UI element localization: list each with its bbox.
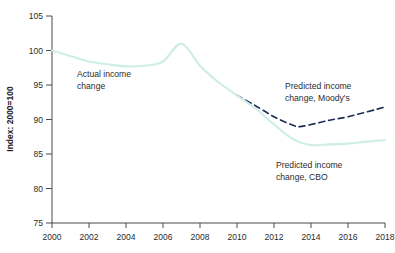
x-tick-label: 2004	[117, 232, 136, 242]
x-tick-label: 2006	[154, 232, 173, 242]
x-tick-label: 2018	[376, 232, 395, 242]
y-tick-label: 105	[29, 11, 43, 21]
x-tick-label: 2014	[302, 232, 321, 242]
y-tick-label: 75	[34, 218, 44, 228]
y-axis-title: Index: 2000=100	[5, 86, 15, 152]
x-tick-label: 2002	[80, 232, 99, 242]
annotation-line: Predicted income	[276, 160, 343, 170]
income-index-chart: 1051009590858075 20002002200420062008201…	[0, 0, 395, 253]
x-tick-label: 2012	[265, 232, 284, 242]
annotation-line: change, CBO	[276, 172, 328, 182]
x-tick-label: 2008	[191, 232, 210, 242]
chart-background	[0, 0, 395, 253]
x-tick-label: 2010	[228, 232, 247, 242]
chart-svg: 1051009590858075 20002002200420062008201…	[0, 0, 395, 253]
x-tick-label: 2000	[43, 232, 62, 242]
y-tick-label: 90	[34, 115, 44, 125]
annotation-line: change	[77, 81, 105, 91]
y-tick-label: 95	[34, 80, 44, 90]
annotation-line: Predicted income	[285, 81, 352, 91]
y-tick-label: 80	[34, 184, 44, 194]
annotation-line: Actual income	[77, 69, 131, 79]
annotation-line: change, Moody's	[285, 93, 350, 103]
y-tick-label: 100	[29, 46, 43, 56]
y-tick-label: 85	[34, 149, 44, 159]
x-tick-label: 2016	[339, 232, 358, 242]
